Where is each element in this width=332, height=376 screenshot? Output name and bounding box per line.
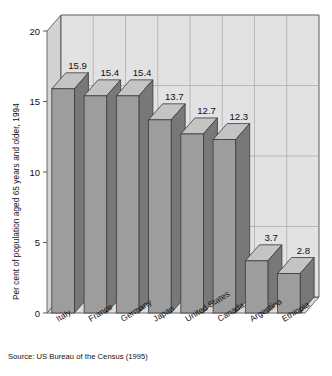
bar-value-label: 15.9 <box>68 60 87 71</box>
bar-value-label: 15.4 <box>100 67 119 78</box>
y-tick-label: 5 <box>35 237 40 248</box>
y-tick-label: 15 <box>29 96 40 107</box>
bar-japan <box>149 104 186 313</box>
bar-united-states <box>181 118 218 313</box>
y-axis-title: Per cent of population aged 65 years and… <box>12 103 21 300</box>
bar-value-label: 13.7 <box>165 91 184 102</box>
bar-germany <box>116 80 153 313</box>
bar-value-label: 3.7 <box>264 232 277 243</box>
y-tick-label: 10 <box>29 167 40 178</box>
source-note: Source: US Bureau of the Census (1995) <box>8 352 148 361</box>
bar-value-label: 2.8 <box>297 245 310 256</box>
bar-italy <box>52 73 89 313</box>
bar-value-label: 15.4 <box>133 67 152 78</box>
y-tick-label: 20 <box>29 26 40 37</box>
y-axis: 05101520 <box>29 26 47 319</box>
bar-value-label: 12.7 <box>197 105 216 116</box>
y-tick-label: 0 <box>35 308 40 319</box>
bar-value-label: 12.3 <box>229 111 248 122</box>
bar-france <box>84 80 121 313</box>
bar-chart-3d: 05101520 15.915.415.413.712.712.33.72.8 … <box>0 0 332 376</box>
chart-figure: 05101520 15.915.415.413.712.712.33.72.8 … <box>0 0 332 376</box>
bar-canada <box>213 124 250 313</box>
